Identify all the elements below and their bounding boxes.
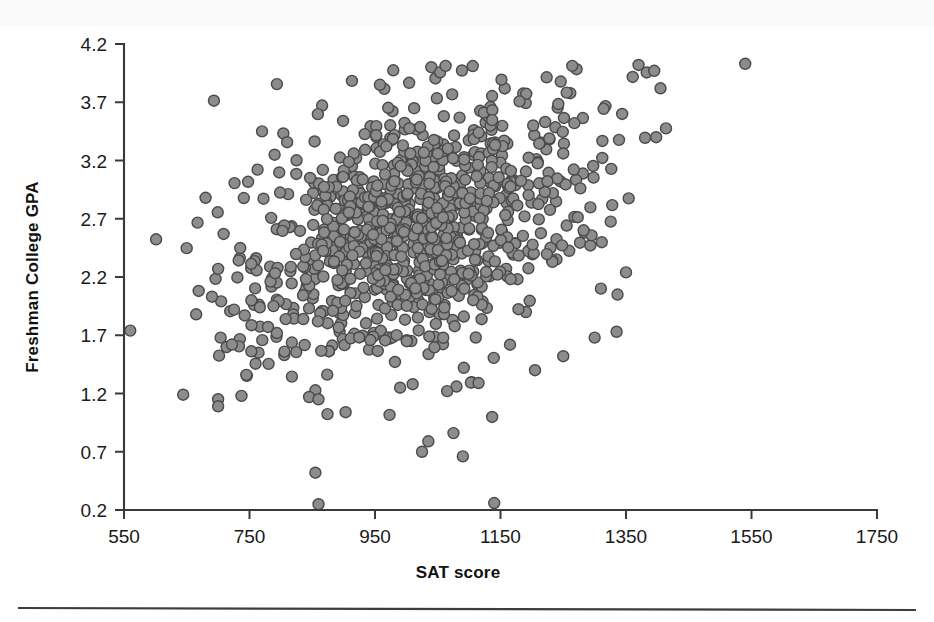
data-point [372,345,383,356]
data-point [381,141,392,152]
data-point [229,304,240,315]
data-point [585,202,596,213]
y-tick-label: 2.2 [81,267,107,288]
data-point [561,87,572,98]
data-point [358,282,369,293]
data-point [404,123,415,134]
data-point [246,346,257,357]
data-point [372,180,383,191]
data-point [393,284,404,295]
data-point [257,126,268,137]
data-point [246,295,257,306]
y-tick-label: 0.2 [81,500,107,521]
x-tick-label: 950 [359,526,391,547]
data-point [246,320,257,331]
data-point [301,194,312,205]
data-point [274,167,285,178]
data-point [410,283,421,294]
data-point [313,499,324,510]
data-point [429,342,440,353]
y-tick-label: 1.2 [81,384,107,405]
data-point [487,411,498,422]
data-point [542,176,553,187]
data-point [449,274,460,285]
data-point [239,310,250,321]
x-tick-label: 1750 [856,526,898,547]
data-point [442,386,453,397]
data-point [488,352,499,363]
data-point [312,109,323,120]
data-point [383,102,394,113]
data-point [424,178,435,189]
data-point [360,318,371,329]
data-point [558,351,569,362]
data-point [335,236,346,247]
data-point [317,164,328,175]
data-point [605,216,616,227]
data-point [229,178,240,189]
data-point [210,273,221,284]
data-point [640,132,651,143]
data-point [532,158,543,169]
data-point [193,285,204,296]
data-point [380,265,391,276]
data-point [517,230,528,241]
scan-artifact-band [0,0,934,26]
data-point [487,115,498,126]
data-point [285,261,296,272]
data-point [354,332,365,343]
data-point [468,295,479,306]
data-point [505,339,516,350]
data-point [346,75,357,86]
data-point [512,200,523,211]
data-point [181,243,192,254]
data-point [553,99,564,110]
chart-canvas: 0.20.71.21.72.22.73.23.74.2 550750950115… [0,0,934,622]
data-point [585,240,596,251]
data-point [389,356,400,367]
data-point [291,168,302,179]
data-point [427,232,438,243]
data-point [448,428,459,439]
data-point [436,255,447,266]
data-point [395,382,406,393]
data-point [558,148,569,159]
data-point [212,207,223,218]
data-point [395,161,406,172]
data-point [574,237,585,248]
data-point [454,237,465,248]
data-point [151,234,162,245]
data-point [458,311,469,322]
data-point [505,165,516,176]
y-tick-label: 3.2 [81,151,107,172]
data-point [541,249,552,260]
data-point [250,283,261,294]
data-point [368,229,379,240]
data-point [655,83,666,94]
data-point [371,251,382,262]
data-point [457,451,468,462]
data-point [313,260,324,271]
data-point [357,174,368,185]
data-point [611,326,622,337]
data-point [440,60,451,71]
data-point [271,328,282,339]
data-point [401,336,412,347]
data-point [213,263,224,274]
data-point [398,226,409,237]
data-point [178,389,189,400]
data-point [277,225,288,236]
data-point [226,339,237,350]
data-point [612,289,623,300]
data-point [332,275,343,286]
x-axis-title: SAT score [416,563,501,582]
data-point [607,200,618,211]
data-point [377,215,388,226]
data-point [597,135,608,146]
data-point [418,147,429,158]
data-point [340,407,351,418]
data-point [621,267,632,278]
data-point [472,159,483,170]
data-point [305,172,316,183]
data-point [572,212,583,223]
